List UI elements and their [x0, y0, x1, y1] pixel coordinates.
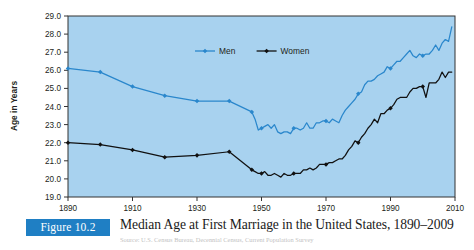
- y-tick-label: 29.0: [45, 12, 61, 21]
- x-tick-label: 1930: [188, 204, 207, 212]
- figure-container: 19.020.021.022.023.024.025.026.027.028.0…: [0, 0, 474, 250]
- chart-area: 19.020.021.022.023.024.025.026.027.028.0…: [0, 0, 474, 212]
- y-tick-label: 25.0: [45, 84, 61, 93]
- figure-number-badge: Figure 10.2: [26, 219, 110, 236]
- x-axis-ticks: [68, 197, 455, 201]
- plot-background: [68, 16, 455, 197]
- y-axis-ticks: [64, 16, 68, 197]
- x-tick-label: 1950: [252, 204, 271, 212]
- y-tick-label: 21.0: [45, 157, 61, 166]
- figure-title: Median Age at First Marriage in the Unit…: [120, 217, 470, 233]
- x-tick-label: 1890: [59, 204, 78, 212]
- y-tick-label: 20.0: [45, 175, 61, 184]
- y-tick-label: 26.0: [45, 66, 61, 75]
- y-tick-label: 28.0: [45, 30, 61, 39]
- y-tick-label: 24.0: [45, 103, 61, 112]
- x-tick-label: 1970: [317, 204, 336, 212]
- y-tick-label: 23.0: [45, 121, 61, 130]
- y-axis-title: Age in Years: [9, 81, 19, 131]
- x-axis-tick-labels: 1890191019301950197019902010: [59, 204, 465, 212]
- figure-source-note: Source: U.S. Census Bureau, Decennial Ce…: [120, 236, 472, 243]
- legend-label-women: Women: [281, 46, 310, 56]
- x-tick-label: 1910: [123, 204, 142, 212]
- y-tick-label: 22.0: [45, 139, 61, 148]
- x-tick-label: 2010: [446, 204, 465, 212]
- y-axis-tick-labels: 19.020.021.022.023.024.025.026.027.028.0…: [45, 12, 61, 202]
- legend-label-men: Men: [219, 46, 236, 56]
- y-tick-label: 19.0: [45, 193, 61, 202]
- y-tick-label: 27.0: [45, 48, 61, 57]
- figure-caption: Figure 10.2 Median Age at First Marriage…: [0, 212, 474, 250]
- x-tick-label: 1990: [381, 204, 400, 212]
- line-chart: 19.020.021.022.023.024.025.026.027.028.0…: [0, 0, 474, 212]
